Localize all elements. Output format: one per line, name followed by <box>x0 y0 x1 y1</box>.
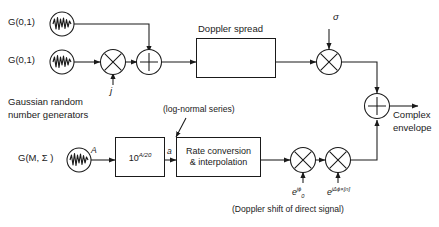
doppler-shift-caption: (Doppler shift of direct signal) <box>232 205 344 215</box>
gauss-lognormal-label: G(M, Σ ) <box>18 153 53 164</box>
power-law-expression: 10A/20 <box>129 151 152 164</box>
sigma-label: σ <box>333 12 339 23</box>
amplitude-a-label: a <box>167 147 172 157</box>
doppler-spread-block <box>196 38 276 78</box>
rate-line-2: & interpolation <box>190 157 248 167</box>
exp-dphi-label: ejΔϕ×[n] <box>327 186 350 198</box>
lognormal-note: (log-normal series) <box>163 105 235 115</box>
complex-envelope-line1: Complex <box>393 110 431 121</box>
gaussian-caption-line1: Gaussian random <box>8 97 83 108</box>
gauss-top-label: G(0,1) <box>8 17 35 28</box>
amplitude-A-label: A <box>91 146 97 156</box>
block-diagram: G(0,1) G(0,1) j Gaussian random number g… <box>0 0 439 227</box>
gauss-mid-label: G(0,1) <box>8 55 35 66</box>
exp-dphi-exponent: jΔϕ×[n] <box>332 186 350 192</box>
j-label: j <box>110 86 112 97</box>
gaussian-caption-line2: number generators <box>8 110 88 121</box>
exp-phi0-label: ejϕ0 <box>292 186 304 199</box>
exp-phi0-subscript: 0 <box>301 193 304 199</box>
rate-conversion-block: Rate conversion & interpolation <box>176 137 261 177</box>
rate-conversion-text: Rate conversion & interpolation <box>186 146 251 168</box>
noise-source-symbols <box>50 12 91 172</box>
power-law-block: 10A/20 <box>115 137 165 177</box>
power-base: 10 <box>129 153 139 163</box>
complex-envelope-line2: envelope <box>393 123 432 134</box>
power-exponent: A/20 <box>139 151 152 158</box>
doppler-spread-label: Doppler spread <box>198 24 263 35</box>
exp-phi0-exponent: jϕ <box>297 186 302 192</box>
rate-line-1: Rate conversion <box>186 146 251 156</box>
